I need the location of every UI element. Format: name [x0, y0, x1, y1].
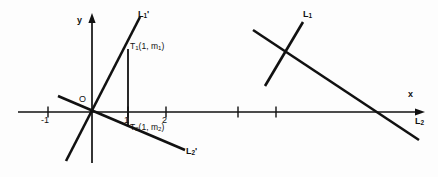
line-label-L2-prime-mark: ': [195, 146, 197, 156]
x-axis-arrowhead: [415, 108, 425, 115]
line-L1: [265, 22, 303, 86]
line-L2: [253, 30, 419, 140]
line-label-L2-prime: L2': [186, 147, 197, 157]
left-diagram-group: [18, 13, 200, 163]
line-label-L2-sub: 2: [421, 119, 425, 126]
origin-label: O: [79, 95, 86, 104]
point-label-T1-close: ): [161, 41, 164, 51]
point-label-T2-close: ): [161, 122, 164, 132]
line-label-L1-prime-mark: ': [147, 9, 149, 19]
point-label-T1: T1(1, m1): [130, 42, 164, 51]
point-label-T2: T2(1, m2): [130, 123, 164, 132]
line-label-L1-sub: 1: [309, 12, 313, 19]
y-axis-label: y: [77, 16, 82, 25]
tick-label-one: 1: [124, 116, 129, 125]
figure-svg: [0, 0, 438, 177]
y-axis-arrowhead: [88, 13, 95, 23]
line-label-L2: L2: [415, 117, 424, 127]
point-label-T1-coords: (1, m: [139, 41, 158, 51]
tick-label-minus-one: -1: [41, 116, 49, 125]
line-label-L1-prime: L1': [138, 10, 149, 20]
x-axis-label: x: [408, 90, 413, 99]
line-label-L1: L1: [303, 10, 312, 20]
figure-container: y x O -1 1 2 L1' L2' L1 L2 T1(1, m1) T2(…: [0, 0, 438, 177]
point-label-T2-coords: (1, m: [139, 122, 158, 132]
right-diagram-group: [200, 22, 425, 140]
